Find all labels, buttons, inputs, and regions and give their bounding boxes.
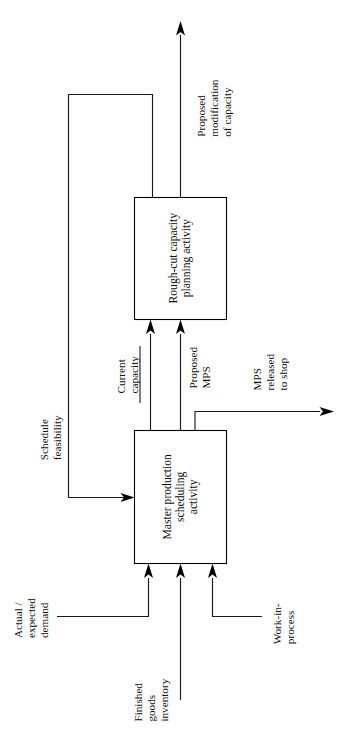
box-label-master-production-scheduling-text: Master production scheduling activity xyxy=(161,454,201,539)
label-actual-expected-demand-text: Actual / expected demand xyxy=(12,598,50,638)
label-proposed-mps: Proposed MPS xyxy=(184,336,216,400)
box-label-master-production-scheduling: Master production scheduling activity xyxy=(134,430,227,564)
label-schedule-feasibility-text: Schedule feasibility xyxy=(37,416,63,461)
arrowhead-current-capacity xyxy=(146,320,155,335)
label-work-in-process: Work-in- process xyxy=(266,588,300,660)
label-current-capacity-text: Current capacity xyxy=(115,356,141,393)
line-work-in-process xyxy=(213,578,263,617)
arrowhead-work-in-process xyxy=(208,564,217,579)
label-actual-expected-demand: Actual / expected demand xyxy=(8,580,54,656)
arrowhead-actual-expected-demand xyxy=(144,564,153,579)
label-finished-goods-inventory-text: Finished goods inventory xyxy=(132,679,170,722)
label-work-in-process-text: Work-in- process xyxy=(270,604,296,645)
box-label-rough-cut-capacity-text: Rough-cut capacity planning activity xyxy=(167,213,193,303)
label-finished-goods-inventory: Finished goods inventory xyxy=(128,660,174,740)
label-proposed-mps-text: Proposed MPS xyxy=(187,347,213,389)
label-proposed-modification-of-capacity-text: Proposed modification of capacity xyxy=(195,79,233,136)
arrowhead-mps-released-to-shop xyxy=(320,407,335,416)
label-current-capacity: Current capacity xyxy=(112,346,144,404)
label-mps-released-to-shop-text: MPS released to shop xyxy=(251,354,289,391)
box-label-rough-cut-capacity: Rough-cut capacity planning activity xyxy=(134,197,227,320)
arrowhead-proposed-mps xyxy=(176,320,185,335)
line-actual-expected-demand xyxy=(57,578,149,617)
arrowhead-finished-goods-inventory xyxy=(176,564,185,579)
label-schedule-feasibility: Schedule feasibility xyxy=(34,398,66,478)
diagram-canvas: Rough-cut capacity planning activity Mas… xyxy=(0,0,338,748)
line-mps-released-to-shop xyxy=(195,412,320,431)
label-proposed-modification-of-capacity: Proposed modification of capacity xyxy=(186,48,232,168)
arrowhead-proposed-modification-of-capacity xyxy=(176,21,185,36)
label-mps-released-to-shop: MPS released to shop xyxy=(246,340,294,404)
